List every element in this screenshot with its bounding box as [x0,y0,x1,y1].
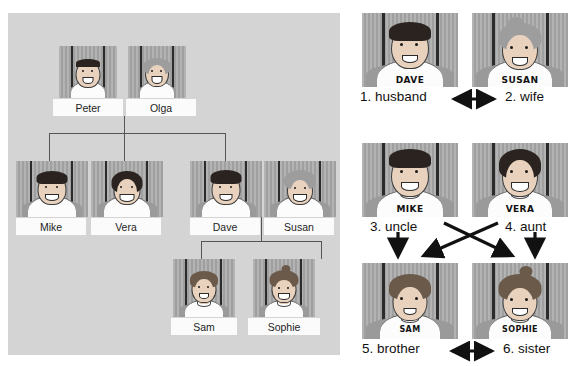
eye-right [207,286,209,288]
relation-label-sister: 6. sister [503,341,550,356]
portrait-peter[interactable] [59,46,117,98]
connector-drop-sam [201,241,202,259]
eye-right [415,170,418,173]
mouth [512,308,528,316]
connector-horizontal-children [49,133,226,134]
nameplate-sam: Sam [171,318,237,335]
mouth [152,76,163,84]
eye-right [56,186,58,188]
portrait-mike[interactable] [16,161,88,217]
eye-right [525,170,528,173]
connector-vertical-parents [124,116,125,134]
arrows-uncle-aunt-to-children [348,215,575,265]
eye-right [91,70,93,72]
eye-left [510,298,513,301]
relation-label-brother: 5. brother [362,341,420,356]
nameplate-mike: Mike [16,218,86,235]
eye-left [278,287,280,289]
nameplate-olga: Olga [126,99,196,116]
mouth [404,308,417,315]
portrait-dave[interactable] [190,161,262,217]
arrow-brother-sister [444,342,500,360]
connector-drop-dave [225,133,226,161]
eye-left [219,186,221,188]
eye-left [120,186,122,188]
relation-portrait-mike[interactable]: MIKE [362,143,458,217]
hair [37,171,68,184]
eye-left [151,70,153,72]
mouth [83,77,94,84]
eye-right [525,298,528,301]
eye-right [160,70,162,72]
family-tree-panel: Peter Olga [8,13,340,355]
eye-right [415,43,418,46]
eye-right [287,287,289,289]
mouth [45,194,59,201]
relation-exercise-panel: DAVE SUSAN 1. husband 2. wife [348,0,575,366]
portrait-sam[interactable] [173,259,235,317]
relation-label-husband: 1. husband [360,89,427,104]
portrait-sophie[interactable] [253,259,315,317]
relation-portrait-sophie[interactable]: SOPHIE [472,263,568,339]
worksheet-canvas: Peter Olga [0,0,575,366]
nameplate-vera: Vera [91,218,161,235]
hair [211,170,242,184]
mouth [402,55,418,63]
nameplate-dave: Dave [190,218,260,235]
eye-right [415,297,418,300]
mouth [199,293,209,299]
mouth [401,182,419,191]
arrow-husband-wife [446,90,502,108]
shirt-label-dave: DAVE [396,75,425,85]
portrait-susan[interactable] [264,161,336,217]
relation-portrait-dave[interactable]: DAVE [362,13,458,87]
portrait-vera[interactable] [91,161,163,217]
shirt-label-vera: VERA [506,204,535,214]
eye-right [131,186,133,188]
eye-left [198,286,200,288]
eye-right [304,187,306,189]
hair-bun [508,17,525,30]
shirt-label-susan: SUSAN [502,75,539,85]
eye-right [230,186,232,188]
relation-portrait-sam[interactable]: SAM [362,263,458,339]
eye-left [400,43,403,46]
mouth [512,57,528,66]
shirt-label-sophie: SOPHIE [502,325,538,334]
mouth [511,182,529,192]
ponytail [519,266,532,277]
eye-left [400,170,403,173]
eye-left [82,70,84,72]
eye-left [45,186,47,188]
nameplate-sophie: Sophie [248,318,320,335]
shirt-label-sam: SAM [399,325,420,334]
eye-right [525,46,528,49]
mouth [220,194,233,201]
mouth [278,293,290,300]
connector-drop-vera [124,133,125,161]
connector-horizontal-grandchildren [201,241,322,242]
eye-left [510,170,513,173]
hair [389,149,431,168]
hair [389,22,431,41]
relation-portrait-susan[interactable]: SUSAN [472,13,568,87]
relation-portrait-vera[interactable]: VERA [472,143,568,217]
connector-vertical-dave-susan [261,217,262,241]
ponytail [282,265,291,273]
hair [76,59,100,67]
relation-label-wife: 2. wife [505,89,544,104]
nameplate-susan: Susan [264,218,334,235]
portrait-olga[interactable] [128,46,186,98]
nameplate-peter: Peter [53,99,123,116]
eye-left [400,297,403,300]
eye-left [510,46,513,49]
connector-drop-mike [49,133,50,161]
shirt-label-mike: MIKE [396,204,423,214]
eye-left [294,187,296,189]
mouth [293,194,307,202]
mouth [120,194,135,202]
connector-drop-sophie [321,241,322,259]
